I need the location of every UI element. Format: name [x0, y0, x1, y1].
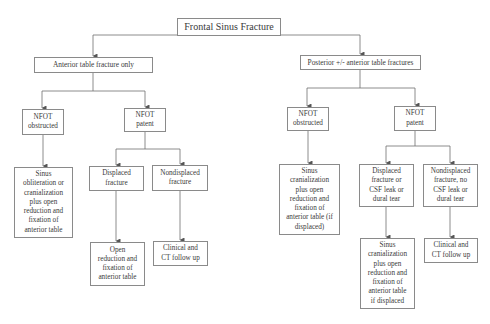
node-anterior-nfot-obstructed: NFOT obstructed — [22, 109, 64, 135]
node-anterior-nondisplaced-treatment: Clinical and CT follow up — [153, 241, 208, 266]
node-anterior-displaced-treatment: Open reduction and fixation of anterior … — [90, 242, 145, 286]
node-label: Sinus cranialization plus open reduction… — [368, 241, 407, 305]
connector-lines — [0, 0, 490, 324]
node-label: Clinical and CT follow up — [161, 244, 200, 262]
node-label: Displaced fracture or CSF leak or dural … — [369, 167, 403, 204]
flowchart: Frontal Sinus Fracture Anterior table fr… — [0, 0, 490, 324]
node-posterior-obstructed-treatment: Sinus cranialization plus open reduction… — [279, 164, 340, 235]
node-label: Sinus cranialization plus open reduction… — [286, 167, 333, 231]
node-label: Nondisplaced fracture, no CSF leak or du… — [431, 167, 471, 204]
node-posterior-table: Posterior +/- anterior table fractures — [300, 55, 421, 70]
node-anterior-obstructed-treatment: Sinus obliteration or cranialization plu… — [14, 167, 73, 238]
node-posterior-displaced: Displaced fracture or CSF leak or dural … — [359, 164, 414, 207]
node-anterior-displaced: Displaced fracture — [89, 166, 144, 191]
node-posterior-nondisplaced-treatment: Clinical and CT follow up — [424, 238, 478, 263]
node-label: NFOT obstructed — [28, 113, 58, 131]
node-label: Posterior +/- anterior table fractures — [308, 58, 414, 67]
node-label: Nondisplaced fracture — [160, 169, 200, 187]
node-label: NFOT obstructed — [293, 110, 323, 128]
node-posterior-nfot-obstructed: NFOT obstructed — [287, 107, 329, 131]
node-label: Frontal Sinus Fracture — [184, 21, 273, 33]
node-posterior-displaced-treatment: Sinus cranialization plus open reduction… — [360, 238, 415, 309]
node-posterior-nfot-patent: NFOT patent — [394, 106, 436, 131]
node-label: NFOT patent — [406, 109, 425, 127]
node-anterior-nfot-patent: NFOT patent — [124, 108, 166, 132]
node-label: Displaced fracture — [102, 169, 131, 187]
node-label: Clinical and CT follow up — [432, 241, 471, 259]
node-anterior-nondisplaced: Nondisplaced fracture — [152, 165, 208, 191]
node-anterior-table-only: Anterior table fracture only — [34, 57, 153, 73]
node-frontal-sinus-fracture: Frontal Sinus Fracture — [177, 18, 281, 36]
node-label: NFOT patent — [136, 111, 155, 129]
node-label: Open reduction and fixation of anterior … — [98, 246, 137, 283]
node-label: Anterior table fracture only — [53, 60, 134, 69]
node-posterior-nondisplaced: Nondisplaced fracture, no CSF leak or du… — [423, 164, 478, 207]
node-label: Sinus obliteration or cranialization plu… — [23, 170, 64, 234]
